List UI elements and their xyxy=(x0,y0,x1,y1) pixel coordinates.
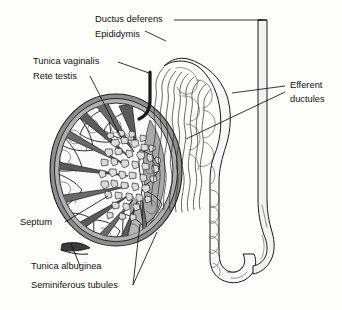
label-epididymis: Epididymis xyxy=(95,29,140,39)
label-tunica-vaginalis: Tunica vaginalis xyxy=(33,56,100,66)
label-efferent-ductules-line2: ductules xyxy=(290,94,325,104)
label-efferent-ductules-line1: Efferent xyxy=(290,80,323,90)
label-ductus-deferens: Ductus deferens xyxy=(95,14,163,24)
testis-anatomy-figure: Ductus deferens Epididymis Tunica vagina… xyxy=(0,0,342,310)
label-septum: Septum xyxy=(20,217,52,227)
label-seminiferous-tubules: Seminiferous tubules xyxy=(31,280,118,290)
label-rete-testis: Rete testis xyxy=(33,71,77,81)
label-tunica-albuginea: Tunica albuginea xyxy=(31,261,102,271)
